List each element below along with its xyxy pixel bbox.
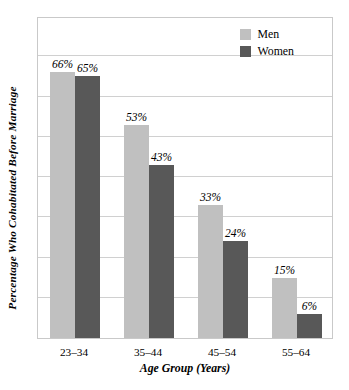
legend: MenWomen [240,27,294,58]
bar-chart: Percentage Who Cohabitated Before Marria… [0,0,349,390]
x-axis-tick-labels: 23–3435–4445–5455–64 [37,344,333,360]
bar-value-label: 33% [200,191,221,204]
bar-value-label: 15% [274,264,295,277]
bar-women-23-34: 65% [75,76,100,338]
legend-label: Men [258,27,280,41]
legend-label: Women [258,44,294,58]
x-axis-title: Age Group (Years) [37,361,333,376]
bar-value-label: 65% [77,62,98,75]
legend-swatch-women [240,46,251,57]
x-tick-label: 35–44 [134,344,162,360]
bar-women-35-44: 43% [149,165,174,338]
bar-group: 15%6% [272,18,322,338]
bar-group: 53%43% [124,18,174,338]
bars-layer: 66%65%53%43%33%24%15%6% [38,18,332,338]
plot-area: 66%65%53%43%33%24%15%6% MenWomen [37,17,333,339]
bar-value-label: 66% [52,58,73,71]
legend-swatch-men [240,29,251,40]
bar-value-label: 6% [302,300,317,313]
x-tick-label: 23–34 [60,344,88,360]
bar-group: 66%65% [50,18,100,338]
y-axis-title: Percentage Who Cohabitated Before Marria… [2,37,22,359]
bar-value-label: 43% [151,151,172,164]
bar-men-55-64: 15% [272,278,297,338]
bar-value-label: 53% [126,111,147,124]
legend-item-women: Women [240,44,294,58]
bar-women-55-64: 6% [297,314,322,338]
bar-group: 33%24% [198,18,248,338]
bar-men-23-34: 66% [50,72,75,338]
bar-men-35-44: 53% [124,125,149,338]
x-tick-label: 45–54 [208,344,236,360]
bar-women-45-54: 24% [223,241,248,338]
bar-men-45-54: 33% [198,205,223,338]
x-tick-label: 55–64 [282,344,310,360]
legend-item-men: Men [240,27,294,41]
bar-value-label: 24% [225,227,246,240]
